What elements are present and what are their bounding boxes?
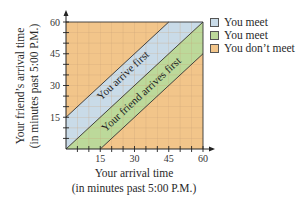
y-tick-label: 30: [50, 80, 60, 91]
legend-swatch-blue: [210, 18, 219, 27]
y-tick-label: 45: [50, 48, 60, 59]
y-tick-label: 60: [50, 17, 60, 28]
x-tick-label: 30: [130, 153, 140, 164]
x-tick-label: 15: [95, 153, 105, 164]
y-tick-label: 15: [50, 112, 60, 123]
x-axis-arrow-icon: [209, 147, 215, 152]
legend-item-you-meet-blue: You meet: [210, 16, 295, 29]
y-axis-title-line1: Your friend’s arrival time: [14, 28, 26, 145]
legend-swatch-orange: [210, 44, 219, 53]
legend-label: You don’t meet: [224, 42, 295, 55]
x-axis-title-line2: (in minutes past 5:00 P.M.): [72, 182, 197, 195]
plot-area: You arrive firstYour friend arrives firs…: [66, 22, 203, 149]
legend-label: You meet: [224, 29, 268, 42]
y-axis-arrow-icon: [64, 10, 69, 16]
legend-item-you-dont-meet: You don’t meet: [210, 42, 295, 55]
x-tick-label: 60: [198, 153, 208, 164]
legend-swatch-green: [210, 31, 219, 40]
y-axis-title-line2: (in minutes past 5:00 P.M.): [28, 24, 41, 149]
legend: You meet You meet You don’t meet: [210, 16, 295, 55]
x-axis-title-line1: Your arrival time: [95, 167, 174, 179]
legend-label: You meet: [224, 16, 268, 29]
x-tick-label: 45: [164, 153, 174, 164]
legend-item-you-meet-green: You meet: [210, 29, 295, 42]
